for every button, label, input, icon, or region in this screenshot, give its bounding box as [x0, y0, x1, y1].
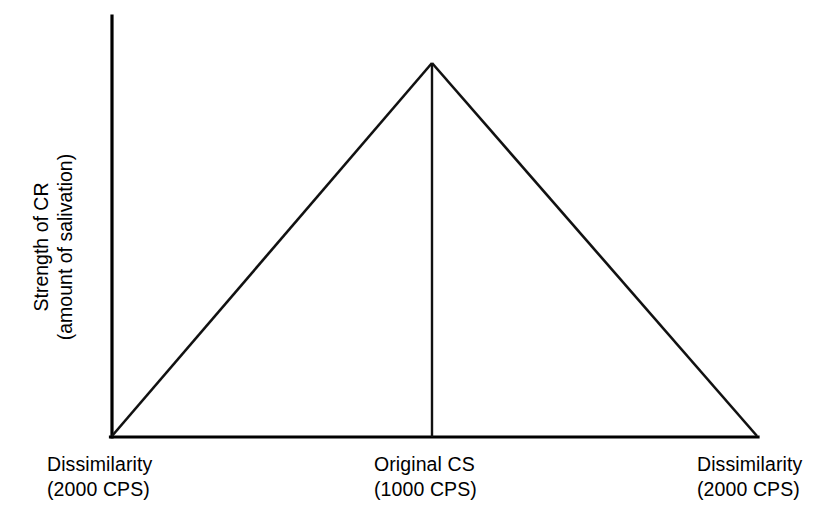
y-axis-label: Strength of CR (amount of salivation)	[29, 127, 77, 367]
x-tick-label-center: Original CS (1000 CPS)	[374, 452, 477, 502]
x-tick-label-right-line-2: (2000 CPS)	[697, 477, 802, 502]
gradient-right-limb	[432, 63, 757, 436]
y-axis-label-line-1: Strength of CR	[30, 183, 52, 312]
generalization-gradient-figure: Strength of CR (amount of salivation) Di…	[0, 0, 826, 528]
x-tick-label-center-line-2: (1000 CPS)	[374, 477, 477, 502]
x-tick-label-right: Dissimilarity (2000 CPS)	[697, 452, 802, 502]
x-tick-label-center-line-1: Original CS	[374, 453, 475, 475]
y-axis-label-line-2: (amount of salivation)	[53, 127, 77, 367]
x-tick-label-left-line-1: Dissimilarity	[47, 453, 152, 475]
gradient-left-limb	[112, 63, 432, 436]
x-tick-label-left: Dissimilarity (2000 CPS)	[47, 452, 152, 502]
x-tick-label-right-line-1: Dissimilarity	[697, 453, 802, 475]
x-tick-label-left-line-2: (2000 CPS)	[47, 477, 152, 502]
plot-area	[0, 0, 826, 528]
